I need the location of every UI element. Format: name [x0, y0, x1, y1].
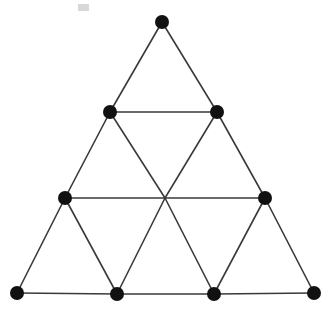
- lattice-node-row4-left: [10, 286, 24, 300]
- figure-background: [0, 0, 335, 316]
- lattice-node-row2-left: [103, 105, 117, 119]
- lattice-edge: [214, 293, 314, 294]
- lattice-node-row3-right: [258, 191, 272, 205]
- lattice-node-row4-midleft: [110, 287, 124, 301]
- lattice-node-row4-midright: [207, 287, 221, 301]
- lattice-edge: [17, 293, 117, 294]
- lattice-node-row4-right: [307, 286, 321, 300]
- scan-smudge-mark: [78, 4, 89, 11]
- lattice-node-row3-left: [58, 191, 72, 205]
- lattice-node-apex: [155, 15, 169, 29]
- triangular-lattice-diagram: [0, 0, 335, 316]
- lattice-node-row2-right: [210, 105, 224, 119]
- scan-artifact-layer: [78, 4, 89, 11]
- figure-root: [0, 0, 335, 316]
